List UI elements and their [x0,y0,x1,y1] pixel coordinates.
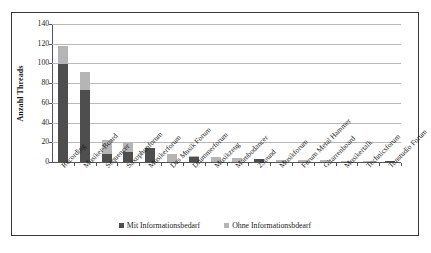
y-axis-tick-labels: 020406080100120140 [30,24,49,163]
legend-item[interactable]: Ohne Informationsbdearf [224,221,311,230]
legend-item[interactable]: Mit Informationsbedarf [119,221,200,230]
y-axis-tick [49,162,52,163]
gridline [52,83,401,84]
y-axis-tick-label: 120 [38,40,49,48]
y-axis-tick [49,63,52,64]
bar-segment-ohne-informationsbdearf[interactable] [80,72,90,90]
x-axis-tick [401,163,402,166]
gridline [52,24,401,25]
y-axis-tick [49,142,52,143]
gridline [52,63,401,64]
y-axis-tick-label: 40 [41,119,49,127]
y-axis-tick-label: 80 [41,79,49,87]
chart-legend: Mit InformationsbedarfOhne Informationsb… [12,221,418,230]
chart-frame: Anzahl Threads 020406080100120140 Record… [11,12,419,236]
y-axis-tick-label: 140 [38,20,49,28]
legend-swatch-icon [119,223,124,228]
y-axis-tick [49,83,52,84]
bar-group[interactable] [58,46,68,162]
y-axis-tick-label: 100 [38,59,49,67]
y-axis-title-label: Anzahl Threads [16,65,25,121]
y-axis-tick [49,103,52,104]
legend-swatch-icon [224,223,229,228]
y-axis-tick-label: 20 [41,138,49,146]
gridline [52,103,401,104]
y-axis-tick [49,44,52,45]
x-axis-tick-labels: RecordingMusiker-BoardSequencerSaxophonf… [52,164,401,226]
gridline [52,44,401,45]
legend-label: Ohne Informationsbdearf [232,221,311,230]
y-axis-tick [49,24,52,25]
bar-segment-ohne-informationsbdearf[interactable] [58,46,68,65]
y-axis-title: Anzahl Threads [13,24,27,163]
y-axis-tick [49,123,52,124]
y-axis-tick-label: 60 [41,99,49,107]
bar-segment-mit-informationsbedarf[interactable] [58,64,68,162]
legend-label: Mit Informationsbedarf [127,221,200,230]
